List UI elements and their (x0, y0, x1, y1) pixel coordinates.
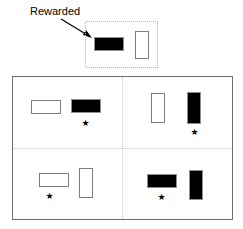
stimulus-figure: Rewarded ★ ★ ★ ★ (0, 0, 243, 229)
sample-white-vertical-bar (135, 31, 149, 59)
vertical-divider (122, 77, 123, 219)
sample-display-panel (85, 21, 158, 68)
bl-correct-star-marker: ★ (45, 192, 54, 201)
tl-black-horizontal-bar (71, 99, 101, 113)
choice-arena: ★ ★ ★ ★ (12, 76, 233, 220)
tl-correct-star-marker: ★ (81, 119, 90, 128)
bl-white-vertical-bar (79, 168, 93, 198)
bl-white-horizontal-bar (39, 173, 69, 187)
tr-correct-star-marker: ★ (190, 128, 199, 137)
tr-black-vertical-bar (187, 92, 201, 124)
tl-white-horizontal-bar (31, 100, 61, 114)
sample-black-horizontal-bar (94, 37, 124, 51)
br-black-vertical-bar (189, 170, 203, 200)
br-black-horizontal-bar (147, 174, 177, 188)
tr-white-vertical-bar (151, 93, 165, 123)
br-correct-star-marker: ★ (157, 193, 166, 202)
